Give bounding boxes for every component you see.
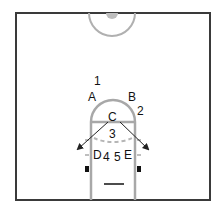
label-1: 1 <box>94 74 101 88</box>
label-2: 2 <box>137 104 144 118</box>
label-4: 4 <box>103 150 110 164</box>
label-e: E <box>124 148 132 162</box>
court-border <box>16 13 210 200</box>
label-a: A <box>88 90 96 104</box>
label-3: 3 <box>109 127 116 141</box>
block-marker-left <box>85 166 89 172</box>
center-circle-fill <box>106 13 118 19</box>
label-c: C <box>108 110 117 124</box>
center-circle <box>89 13 135 36</box>
block-marker-right <box>137 166 141 172</box>
label-5: 5 <box>114 150 121 164</box>
label-b: B <box>128 90 136 104</box>
label-d: D <box>93 148 102 162</box>
arrow-left <box>78 122 108 149</box>
court-diagram: 1 A B 2 C 3 D 4 5 E <box>0 0 220 211</box>
